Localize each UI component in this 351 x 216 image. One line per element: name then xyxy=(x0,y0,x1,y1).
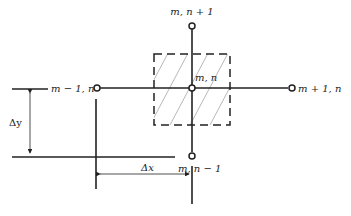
node-right-label: m + 1, n xyxy=(298,83,341,94)
node-left xyxy=(94,85,100,91)
dx-label: Δx xyxy=(140,162,154,173)
node-top xyxy=(189,23,195,29)
node-center-label: m, n xyxy=(195,72,217,83)
node-left-label: m − 1, n xyxy=(51,83,94,94)
node-top-label: m, n + 1 xyxy=(170,6,213,17)
node-bottom xyxy=(189,153,195,159)
node-right xyxy=(289,85,295,91)
node-bottom-label: m, n − 1 xyxy=(178,163,221,174)
dy-label: Δy xyxy=(9,117,22,128)
node-center xyxy=(189,85,195,91)
grid-stencil-diagram: m, n + 1 m, n m − 1, n m + 1, n m, n − 1… xyxy=(0,0,351,216)
